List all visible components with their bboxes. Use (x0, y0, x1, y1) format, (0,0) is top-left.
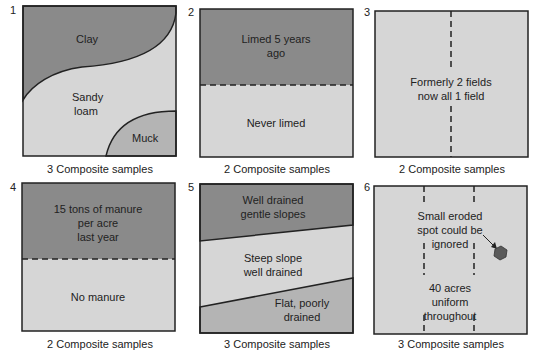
limed-label-line1: Limed 5 years (241, 33, 311, 45)
panel-4-caption: 2 Composite samples (0, 338, 200, 350)
panel-1-field-diagram: Clay Sandy loam Muck (22, 5, 178, 158)
steep-slope-line1: Steep slope (244, 252, 302, 264)
never-limed-label: Never limed (247, 117, 306, 129)
flat-label-line2: drained (284, 311, 321, 323)
flat-label-line1: Flat, poorly (275, 297, 330, 309)
uniform-label-line2: uniform (432, 296, 469, 308)
uniform-label-line1: 40 acres (429, 282, 472, 294)
limed-label-line2: ago (267, 47, 285, 59)
panel-1-number: 1 (10, 4, 16, 16)
panel-4-field-diagram: 15 tons of manure per acre last year No … (21, 182, 177, 334)
panel-6-number: 6 (364, 181, 370, 193)
sandy-label: Sandy (72, 91, 104, 103)
eroded-label-line2: spot could be (417, 224, 482, 236)
well-drained-line2: gentle slopes (241, 208, 306, 220)
clay-label: Clay (76, 33, 99, 45)
panel-3-caption: 2 Composite samples (352, 163, 534, 175)
panel-1-caption: 3 Composite samples (0, 163, 200, 175)
manure-label-line3: last year (77, 231, 119, 243)
panel-2-caption: 2 Composite samples (177, 163, 377, 175)
formerly-label-line1: Formerly 2 fields (410, 76, 492, 88)
manure-label-line2: per acre (78, 217, 118, 229)
panel-6-field-diagram: Small eroded spot could be ignored 40 ac… (373, 185, 529, 337)
panel-3-number: 3 (364, 6, 370, 18)
panel-4-number: 4 (10, 181, 16, 193)
panel-5-field-diagram: Well drained gentle slopes Steep slope w… (199, 183, 355, 336)
formerly-label-line2: now all 1 field (418, 90, 485, 102)
panel-2-number: 2 (188, 6, 194, 18)
muck-label: Muck (132, 132, 159, 144)
panel-6-caption: 3 Composite samples (351, 338, 534, 350)
panel-5-caption: 3 Composite samples (177, 338, 377, 350)
steep-slope-line2: well drained (243, 266, 303, 278)
well-drained-line1: Well drained (243, 194, 304, 206)
manure-label-line1: 15 tons of manure (54, 203, 143, 215)
eroded-label-line3: ignored (432, 238, 469, 250)
panel-3-field-diagram: Formerly 2 fields now all 1 field (374, 10, 530, 160)
panel-5-number: 5 (188, 181, 194, 193)
no-manure-label: No manure (71, 291, 125, 303)
eroded-label-line1: Small eroded (418, 210, 483, 222)
uniform-label-line3: throughout (424, 310, 477, 322)
panel-2-field-diagram: Limed 5 years ago Never limed (199, 8, 355, 160)
loam-label: loam (74, 105, 98, 117)
